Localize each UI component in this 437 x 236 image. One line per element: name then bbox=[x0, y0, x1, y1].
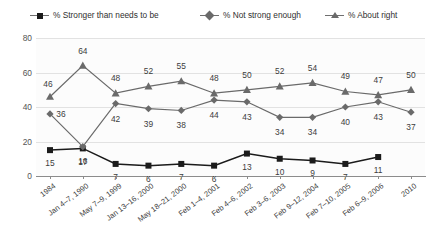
data-point-label: 42 bbox=[103, 115, 129, 123]
triangle-marker-icon bbox=[325, 10, 344, 20]
x-tick-mark bbox=[116, 176, 117, 179]
data-point-marker[interactable] bbox=[342, 103, 349, 110]
x-tick-mark bbox=[148, 176, 149, 179]
data-point-marker[interactable] bbox=[407, 109, 414, 116]
data-point-label: 47 bbox=[365, 76, 391, 84]
x-tick-mark bbox=[214, 176, 215, 179]
x-tick-mark bbox=[280, 176, 281, 179]
data-point-label: 43 bbox=[234, 113, 260, 121]
legend-label: % About right bbox=[348, 10, 397, 20]
data-point-label: 43 bbox=[365, 113, 391, 121]
data-point-label: 39 bbox=[135, 120, 161, 128]
data-point-label: 52 bbox=[267, 67, 293, 75]
data-point-marker[interactable] bbox=[178, 107, 185, 114]
x-tick-mark bbox=[83, 176, 84, 179]
legend-item-not-strong-enough[interactable]: % Not strong enough bbox=[200, 10, 301, 20]
data-point-marker[interactable] bbox=[375, 98, 382, 105]
data-point-label: 49 bbox=[332, 72, 358, 80]
x-axis-labels: 1984Jan 4–7, 1990May 7–9, 1999Jan 13–16,… bbox=[0, 176, 437, 236]
data-point-label: 34 bbox=[300, 128, 326, 136]
x-tick-mark bbox=[247, 176, 248, 179]
data-point-label: 40 bbox=[332, 118, 358, 126]
data-point-marker[interactable] bbox=[145, 105, 152, 112]
data-point-marker[interactable] bbox=[47, 147, 53, 153]
data-point-label: 46 bbox=[35, 80, 61, 88]
data-point-marker[interactable] bbox=[243, 98, 250, 105]
data-point-label: 37 bbox=[398, 123, 424, 131]
data-point-label: 38 bbox=[168, 121, 194, 129]
data-point-marker[interactable] bbox=[79, 62, 87, 69]
line-chart: % Stronger than needs to be % Not strong… bbox=[0, 0, 437, 236]
y-tick-label: 40 bbox=[8, 103, 32, 111]
y-tick-label: 80 bbox=[8, 34, 32, 42]
data-point-marker[interactable] bbox=[244, 151, 250, 157]
data-point-label: 50 bbox=[398, 71, 424, 79]
data-point-label: 44 bbox=[201, 111, 227, 119]
legend-label: % Not strong enough bbox=[223, 10, 301, 20]
data-point-marker[interactable] bbox=[309, 114, 316, 121]
legend-label: % Stronger than needs to be bbox=[53, 10, 159, 20]
data-point-marker[interactable] bbox=[309, 79, 317, 86]
y-tick-label: 60 bbox=[8, 69, 32, 77]
y-tick-label: 20 bbox=[8, 138, 32, 146]
x-tick-mark bbox=[181, 176, 182, 179]
x-tick-mark bbox=[345, 176, 346, 179]
data-point-label: 48 bbox=[201, 74, 227, 82]
x-tick-mark bbox=[378, 176, 379, 179]
data-point-label: 64 bbox=[70, 47, 96, 55]
y-axis-labels: 020406080 bbox=[8, 38, 32, 176]
x-tick-mark bbox=[313, 176, 314, 179]
data-point-label: 36 bbox=[48, 110, 74, 118]
data-point-marker[interactable] bbox=[276, 114, 283, 121]
data-point-marker[interactable] bbox=[210, 97, 217, 104]
legend-item-about-right[interactable]: % About right bbox=[325, 10, 397, 20]
data-point-label: 15 bbox=[37, 159, 63, 167]
data-point-marker[interactable] bbox=[407, 86, 415, 93]
data-point-label: 48 bbox=[103, 74, 129, 82]
x-tick-mark bbox=[50, 176, 51, 179]
square-marker-icon bbox=[30, 10, 49, 20]
data-point-label: 50 bbox=[234, 71, 260, 79]
legend-item-stronger-than-needs-to-be[interactable]: % Stronger than needs to be bbox=[30, 10, 159, 20]
data-point-label: 55 bbox=[168, 62, 194, 70]
data-point-label: 52 bbox=[135, 67, 161, 75]
diamond-marker-icon bbox=[200, 10, 219, 20]
x-tick-mark bbox=[411, 176, 412, 179]
data-point-label: 54 bbox=[300, 64, 326, 72]
data-point-label: 34 bbox=[267, 128, 293, 136]
data-point-label: 17 bbox=[70, 158, 96, 166]
data-point-marker[interactable] bbox=[177, 77, 185, 84]
chart-legend: % Stronger than needs to be % Not strong… bbox=[0, 10, 437, 28]
